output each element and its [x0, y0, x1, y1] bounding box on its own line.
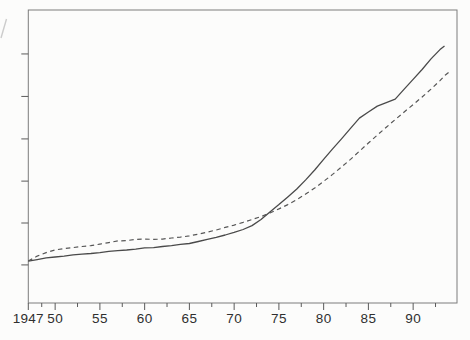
series-solid-line — [28, 46, 444, 261]
x-tick-label: 80 — [316, 311, 332, 326]
x-tick-label: 65 — [182, 311, 198, 326]
chart-page: 1947505560657075808590 — [0, 0, 470, 340]
x-tick-label: 1947 — [13, 311, 44, 326]
line-chart: 1947505560657075808590 — [0, 0, 470, 340]
scan-artifact-mark — [1, 19, 7, 38]
x-tick-label: 60 — [137, 311, 153, 326]
plot-frame — [28, 10, 457, 303]
x-tick-label: 50 — [47, 311, 63, 326]
series-dashed-line — [28, 71, 450, 261]
x-tick-label: 85 — [361, 311, 377, 326]
x-tick-label: 55 — [92, 311, 108, 326]
x-tick-label: 75 — [271, 311, 287, 326]
x-tick-label: 90 — [405, 311, 421, 326]
x-tick-label: 70 — [226, 311, 242, 326]
